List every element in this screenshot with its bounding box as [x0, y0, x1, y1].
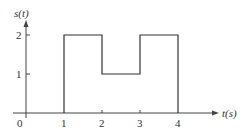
y-axis-label: s(t) [14, 7, 29, 20]
chart-canvas: s(t) t(s) 2 1 0 1 2 3 4 [0, 0, 246, 132]
y-tick-label-2: 2 [16, 29, 22, 41]
y-tick-label-1: 1 [16, 68, 22, 80]
x-tick-label-3: 3 [137, 117, 143, 129]
y-axis-arrow-icon [24, 20, 29, 27]
x-axis-label: t(s) [222, 107, 237, 120]
signal-line [64, 35, 178, 113]
x-tick-label-0: 0 [17, 117, 23, 129]
x-tick-label-2: 2 [99, 117, 105, 129]
signal-chart: s(t) t(s) 2 1 0 1 2 3 4 [0, 0, 246, 132]
x-tick-label-1: 1 [61, 117, 67, 129]
x-tick-label-4: 4 [175, 117, 181, 129]
x-axis-arrow-icon [212, 111, 219, 116]
